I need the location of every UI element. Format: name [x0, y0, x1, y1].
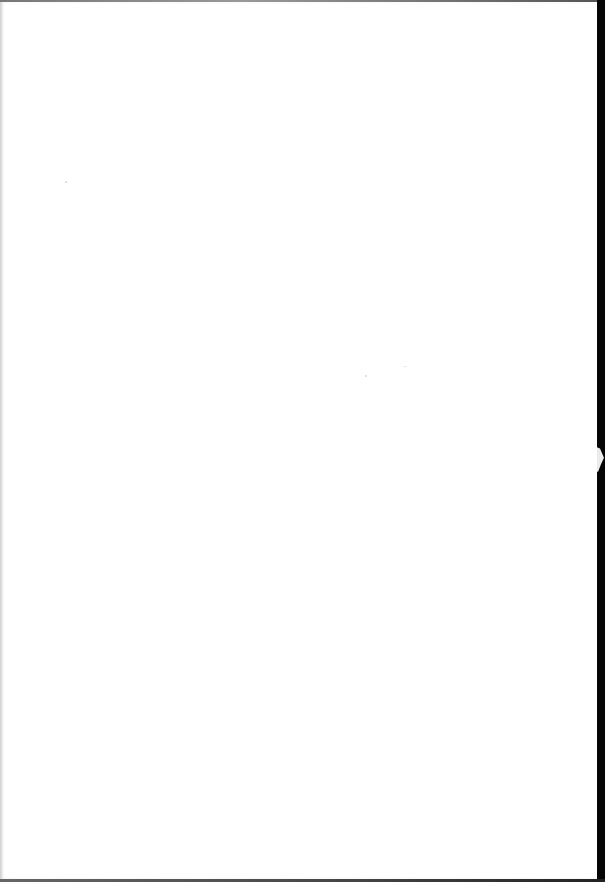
page-left-edge-shadow: [0, 2, 3, 879]
scanned-page-container: [0, 0, 605, 882]
scan-speck: [403, 366, 407, 367]
scan-speck: [65, 181, 67, 183]
blank-paper-page: [0, 2, 597, 879]
scan-speck: [365, 375, 367, 377]
scan-right-dark-band: [597, 0, 605, 882]
